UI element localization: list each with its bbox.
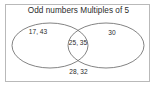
- left-set-title: Odd numbers: [28, 6, 78, 15]
- venn-title: Odd numbers Multiples of 5: [0, 7, 157, 15]
- region-label-intersection: 25, 35: [52, 40, 104, 47]
- venn-diagram-figure: Odd numbers Multiples of 5 17, 43 25, 35…: [0, 0, 157, 88]
- region-label-left-only: 17, 43: [0, 29, 76, 36]
- region-label-right-only: 30: [88, 30, 136, 37]
- right-set-title: Multiples of 5: [80, 6, 129, 15]
- region-label-outside: 28, 32: [0, 69, 157, 76]
